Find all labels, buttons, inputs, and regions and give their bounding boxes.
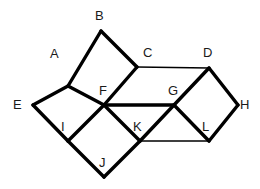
vertex-label-g: G: [168, 84, 178, 97]
edge-g-k: [140, 105, 174, 141]
vertex-label-l: L: [202, 120, 209, 133]
edge-c-d: [137, 67, 209, 68]
vertex-label-c: C: [143, 46, 152, 59]
edge-h-l: [209, 105, 238, 141]
vertex-label-j: J: [99, 156, 106, 169]
edge-a-e: [33, 86, 68, 105]
vertex-label-i: I: [61, 120, 65, 133]
figure-canvas: [0, 0, 260, 189]
vertex-label-a: A: [50, 47, 59, 60]
edge-i-f: [68, 105, 104, 141]
vertex-label-b: B: [95, 9, 104, 22]
edge-a-b: [68, 31, 101, 86]
vertex-label-e: E: [13, 98, 22, 111]
vertex-label-d: D: [203, 46, 212, 59]
vertex-label-h: H: [240, 98, 249, 111]
vertex-label-k: K: [133, 120, 142, 133]
edge-f-c: [104, 67, 137, 105]
edge-j-k: [104, 141, 140, 177]
geometric-figure: ABCDEFGHIJKL: [0, 0, 260, 189]
vertex-label-f: F: [99, 84, 107, 97]
edge-d-h: [209, 68, 238, 105]
edge-d-g: [174, 68, 209, 105]
edge-b-c: [101, 31, 137, 67]
